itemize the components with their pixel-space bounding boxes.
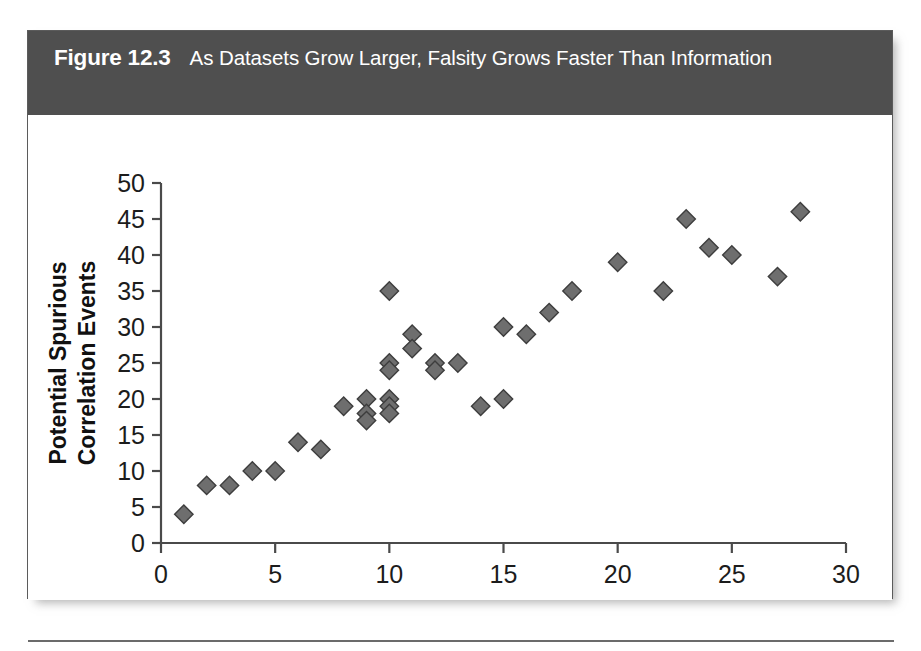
plot-area: Potential SpuriousCorrelation Events Num… <box>28 115 892 600</box>
data-point-marker <box>380 282 398 300</box>
data-point-marker <box>700 239 718 257</box>
y-tick-label: 5 <box>131 493 145 521</box>
data-point-marker <box>403 339 421 357</box>
data-point-marker <box>563 282 581 300</box>
axis-lines <box>161 183 846 543</box>
y-tick-label: 35 <box>117 277 145 305</box>
y-axis-title-line: Potential Spurious <box>45 261 71 464</box>
y-tick-label: 45 <box>117 205 145 233</box>
data-point-marker <box>175 505 193 523</box>
x-tick-label: 15 <box>490 560 518 588</box>
x-tick-label: 10 <box>375 560 403 588</box>
data-point-markers <box>175 203 810 524</box>
y-axis-title-line: Correlation Events <box>74 261 100 466</box>
figure-card: Figure 12.3 As Datasets Grow Larger, Fal… <box>27 30 893 599</box>
x-tick-label: 5 <box>268 560 282 588</box>
figure-number: Figure 12.3 <box>54 42 171 73</box>
data-point-marker <box>494 390 512 408</box>
data-point-marker <box>243 462 261 480</box>
figure-header: Figure 12.3 As Datasets Grow Larger, Fal… <box>28 31 892 115</box>
y-tick-label: 50 <box>117 169 145 197</box>
data-point-marker <box>723 246 741 264</box>
data-point-marker <box>289 433 307 451</box>
data-point-marker <box>654 282 672 300</box>
data-point-marker <box>449 354 467 372</box>
data-point-marker <box>517 325 535 343</box>
y-tick-label: 10 <box>117 457 145 485</box>
data-point-marker <box>471 397 489 415</box>
y-tick-label: 0 <box>131 529 145 557</box>
scatter-chart: Potential SpuriousCorrelation Events Num… <box>28 115 894 600</box>
x-axis-ticks: 051015202530 <box>154 543 860 588</box>
data-point-marker <box>266 462 284 480</box>
x-tick-label: 25 <box>718 560 746 588</box>
data-point-marker <box>334 397 352 415</box>
y-axis-ticks: 05101520253035404550 <box>117 169 161 557</box>
x-tick-label: 20 <box>604 560 632 588</box>
x-tick-label: 0 <box>154 560 168 588</box>
y-axis-title: Potential SpuriousCorrelation Events <box>45 261 100 466</box>
y-tick-label: 20 <box>117 385 145 413</box>
y-tick-label: 15 <box>117 421 145 449</box>
data-point-marker <box>608 253 626 271</box>
figure-caption: As Datasets Grow Larger, Falsity Grows F… <box>190 42 772 73</box>
data-point-marker <box>540 303 558 321</box>
data-point-marker <box>220 476 238 494</box>
data-point-marker <box>494 318 512 336</box>
x-tick-label: 30 <box>832 560 860 588</box>
data-point-marker <box>768 267 786 285</box>
data-point-marker <box>791 203 809 221</box>
y-tick-label: 30 <box>117 313 145 341</box>
data-point-marker <box>677 210 695 228</box>
data-point-marker <box>197 476 215 494</box>
data-point-marker <box>312 440 330 458</box>
bottom-divider <box>28 640 894 642</box>
y-tick-label: 40 <box>117 241 145 269</box>
y-tick-label: 25 <box>117 349 145 377</box>
